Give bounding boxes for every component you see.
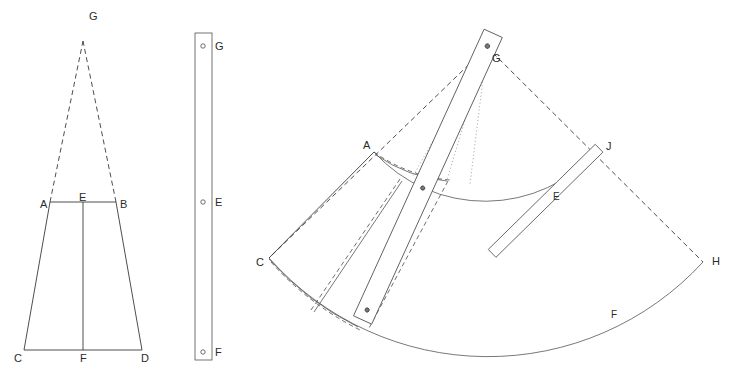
label-a-fan: A xyxy=(363,139,371,151)
batten-hole-g xyxy=(201,44,205,48)
label-f-fan: F xyxy=(611,309,617,320)
label-g-elevation: G xyxy=(89,10,98,22)
segment-ac xyxy=(24,202,50,350)
label-e-fan: E xyxy=(553,191,560,202)
batten-strip-body xyxy=(195,33,212,360)
diagram-root: G A E B C F D G E F xyxy=(0,0,744,375)
apex-line-b-g xyxy=(83,41,116,202)
label-h-fan: H xyxy=(712,255,720,267)
edge-batten-j-h xyxy=(488,144,603,257)
label-d-elevation: D xyxy=(141,352,149,364)
segment-bd xyxy=(116,202,142,350)
label-j-fan: J xyxy=(606,140,612,152)
panel-batten-strip: G E F xyxy=(195,33,224,360)
label-e-elevation: E xyxy=(79,191,86,203)
label-g-fan: G xyxy=(492,52,501,64)
label-f-elevation: F xyxy=(80,352,87,364)
label-f-batten: F xyxy=(215,346,222,358)
label-a-elevation: A xyxy=(40,198,48,210)
apex-line-a-g xyxy=(50,41,83,202)
segment-a-c-fan xyxy=(269,152,374,258)
panel-trapezoid-elevation: G A E B C F D xyxy=(14,10,149,364)
label-g-batten: G xyxy=(215,40,224,52)
radial-dashed-g-c xyxy=(269,47,487,258)
outer-arc-c-h xyxy=(269,258,703,357)
label-e-batten: E xyxy=(215,196,222,208)
batten-hole-f xyxy=(201,350,205,354)
fan-batten-body xyxy=(353,29,502,324)
outer-arc-segment-c xyxy=(269,259,358,327)
outer-arc-dashed-c xyxy=(271,262,360,330)
fan-batten-strip xyxy=(353,29,502,324)
panel-fan-sector: G A E J C H F xyxy=(256,29,720,356)
technical-drawing-canvas: G A E B C F D G E F xyxy=(0,0,744,375)
label-c-fan: C xyxy=(256,256,264,268)
batten-hole-e xyxy=(201,200,205,204)
label-b-elevation: B xyxy=(120,198,127,210)
label-c-elevation: C xyxy=(14,352,22,364)
edge-batten-body xyxy=(488,144,603,257)
